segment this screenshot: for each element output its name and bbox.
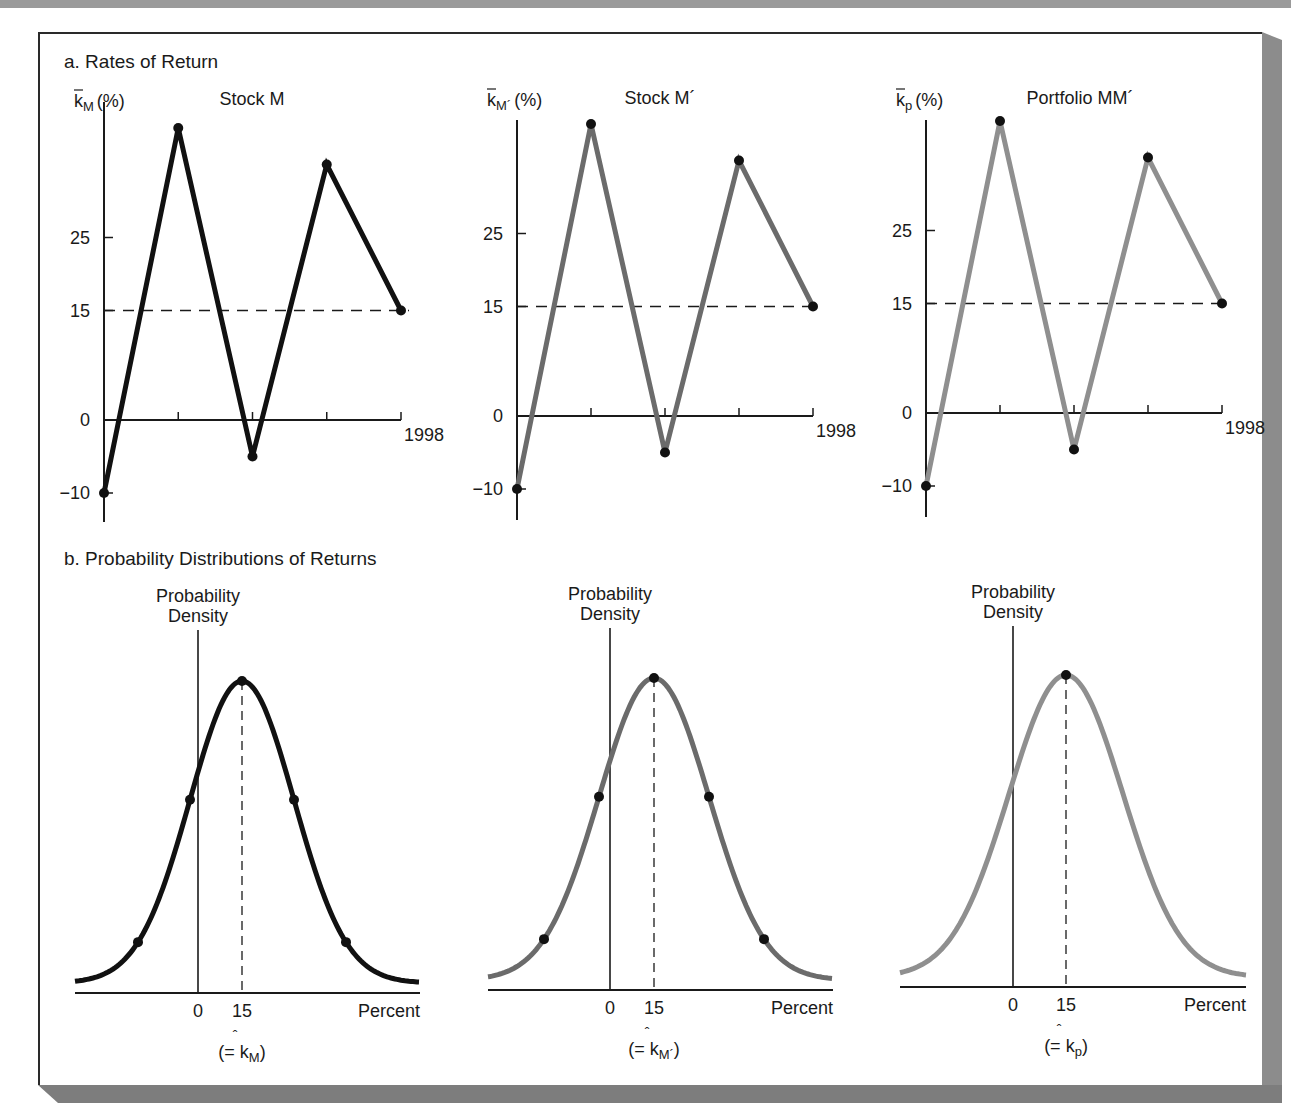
- rates-chart-3: Portfolio MM´kp(%)199825150−10: [881, 88, 1265, 517]
- sigma-point: [704, 792, 714, 802]
- peak-point: [649, 673, 659, 683]
- data-point: [1143, 153, 1153, 163]
- x-tick-label-0: 0: [193, 1001, 203, 1021]
- sigma-point: [133, 937, 143, 947]
- x-axis-label: Percent: [358, 1001, 420, 1021]
- density-curve: [488, 678, 832, 978]
- data-point: [808, 302, 818, 312]
- sigma-point: [341, 937, 351, 947]
- data-point: [1217, 299, 1227, 309]
- y-axis-label-line2: Density: [580, 604, 640, 624]
- x-end-label: 1998: [404, 425, 444, 445]
- data-point: [1069, 445, 1079, 455]
- chart-title: Portfolio MM´: [1026, 88, 1133, 108]
- y-axis-label: kM´(%): [487, 90, 542, 113]
- y-tick-label: 15: [892, 294, 912, 314]
- sigma-point: [594, 792, 604, 802]
- x-tick-label-15: 15: [1056, 995, 1076, 1015]
- sigma-point: [759, 934, 769, 944]
- data-point: [921, 481, 931, 491]
- expected-return-note: (= kp): [1044, 1036, 1088, 1059]
- data-point: [396, 306, 406, 316]
- peak-point: [237, 676, 247, 686]
- expected-return-note: (= kM): [218, 1042, 265, 1065]
- y-tick-label: 15: [483, 297, 503, 317]
- x-axis-label: Percent: [1184, 995, 1246, 1015]
- chart-title: Stock M: [219, 89, 284, 109]
- data-point: [512, 484, 522, 494]
- sigma-point: [185, 795, 195, 805]
- y-tick-label: −10: [472, 479, 503, 499]
- density-curve: [900, 675, 1246, 975]
- rates-chart-2: Stock M´kM´(%)199825150−10: [472, 88, 856, 520]
- chart-title: Stock M´: [624, 88, 695, 108]
- data-point: [322, 160, 332, 170]
- y-tick-label: 15: [70, 301, 90, 321]
- peak-point: [1061, 670, 1071, 680]
- x-end-label: 1998: [816, 421, 856, 441]
- y-axis-label: kM(%): [74, 91, 125, 114]
- hat-accent: ˆ: [645, 1025, 650, 1041]
- figure-canvas: Stock MkM(%)199825150−10Stock M´kM´(%)19…: [0, 0, 1291, 1109]
- y-tick-label: 25: [892, 221, 912, 241]
- data-point: [660, 448, 670, 458]
- hat-accent: ˆ: [1057, 1022, 1062, 1038]
- data-point: [734, 156, 744, 166]
- x-tick-label-15: 15: [644, 998, 664, 1018]
- rates-of-return-charts: Stock MkM(%)199825150−10Stock M´kM´(%)19…: [59, 88, 1265, 522]
- y-tick-label: 0: [493, 406, 503, 426]
- data-point: [99, 488, 109, 498]
- data-point: [995, 116, 1005, 126]
- x-tick-label-0: 0: [605, 998, 615, 1018]
- data-point: [248, 452, 258, 462]
- y-axis-label-line1: Probability: [156, 586, 240, 606]
- rates-chart-1: Stock MkM(%)199825150−10: [59, 89, 444, 522]
- x-end-label: 1998: [1225, 418, 1265, 438]
- y-tick-label: 0: [902, 403, 912, 423]
- distribution-chart-3: ProbabilityDensity015Percent(= kp)ˆ: [900, 582, 1246, 1059]
- y-axis-label-line1: Probability: [568, 584, 652, 604]
- y-tick-label: 25: [70, 228, 90, 248]
- y-tick-label: 25: [483, 224, 503, 244]
- y-axis-label-line1: Probability: [971, 582, 1055, 602]
- y-tick-label: 0: [80, 410, 90, 430]
- y-tick-label: −10: [59, 483, 90, 503]
- sigma-point: [289, 795, 299, 805]
- y-axis-label-line2: Density: [983, 602, 1043, 622]
- x-tick-label-0: 0: [1008, 995, 1018, 1015]
- x-axis-label: Percent: [771, 998, 833, 1018]
- data-point: [586, 119, 596, 129]
- probability-distribution-charts: ProbabilityDensity015Percent(= kM)ˆProba…: [75, 582, 1246, 1065]
- distribution-chart-1: ProbabilityDensity015Percent(= kM)ˆ: [75, 586, 420, 1065]
- data-point: [173, 123, 183, 133]
- y-axis-label: kp(%): [896, 90, 943, 113]
- y-axis-label-line2: Density: [168, 606, 228, 626]
- expected-return-note: (= kM´): [628, 1039, 680, 1062]
- x-tick-label-15: 15: [232, 1001, 252, 1021]
- sigma-point: [539, 934, 549, 944]
- hat-accent: ˆ: [233, 1028, 238, 1044]
- density-curve: [75, 681, 419, 982]
- distribution-chart-2: ProbabilityDensity015Percent(= kM´)ˆ: [488, 584, 833, 1062]
- y-tick-label: −10: [881, 476, 912, 496]
